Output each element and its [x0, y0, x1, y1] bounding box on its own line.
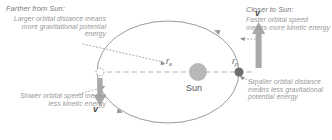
velocity-label-perihelion: v [255, 8, 260, 18]
radius-aphelion-subscript: a [169, 61, 172, 67]
radius-perihelion-subscript: p [235, 61, 238, 67]
leader-line-far-from-sun [83, 44, 163, 62]
annotation-farther-from-sun-heading: Farther from Sun: [6, 5, 106, 13]
planet-aphelion [96, 68, 104, 76]
annotation-smaller-orbital-distance-body: Smaller orbital distance means less grav… [248, 78, 330, 101]
sun-body [189, 63, 207, 81]
sun-label: Sun [186, 83, 202, 93]
annotation-slower-orbital-speed-body: Slower orbital speed means less kinetic … [8, 92, 106, 107]
annotation-slower-orbital-speed: Slower orbital speed means less kinetic … [8, 92, 106, 107]
annotation-farther-from-sun-body: Larger orbital distance means more gravi… [6, 15, 106, 38]
leader-arrow-closer-to-sun [240, 37, 245, 41]
annotation-farther-from-sun: Farther from Sun: Larger orbital distanc… [6, 5, 106, 38]
velocity-label-aphelion: v [93, 104, 98, 114]
radius-label-perihelion: rp [232, 55, 238, 66]
radius-label-aphelion: ra [166, 55, 172, 66]
annotation-closer-to-sun-body: Faster orbital speed means more kinetic … [246, 16, 330, 31]
planet-perihelion [235, 68, 244, 77]
annotation-smaller-orbital-distance: Smaller orbital distance means less grav… [248, 78, 330, 101]
